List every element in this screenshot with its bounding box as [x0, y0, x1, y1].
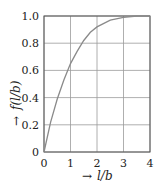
- x-tick-label: 4: [147, 157, 154, 170]
- grid-lines: [44, 16, 150, 152]
- y-tick-label: 0.8: [22, 37, 40, 50]
- y-tick-label: 0.2: [22, 119, 40, 132]
- y-tick-label: 1.0: [22, 10, 40, 23]
- chart: 01234 00.20.40.60.81.0 → l/b → f(l/b): [0, 0, 163, 189]
- y-tick-label: 0.6: [22, 64, 40, 77]
- x-tick-label: 0: [41, 157, 48, 170]
- y-tick-labels: 00.20.40.60.81.0: [22, 10, 40, 159]
- x-axis-label: → l/b: [82, 169, 113, 183]
- y-arrow-icon: →: [9, 116, 23, 126]
- y-axis-title: f(l/b): [9, 80, 23, 111]
- y-tick-label: 0.4: [22, 92, 40, 105]
- x-arrow-icon: →: [82, 169, 92, 183]
- x-tick-label: 1: [67, 157, 74, 170]
- y-axis-label: → f(l/b): [9, 80, 23, 126]
- x-axis-title: l/b: [97, 169, 113, 183]
- x-tick-label: 3: [120, 157, 127, 170]
- y-tick-label: 0: [32, 146, 39, 159]
